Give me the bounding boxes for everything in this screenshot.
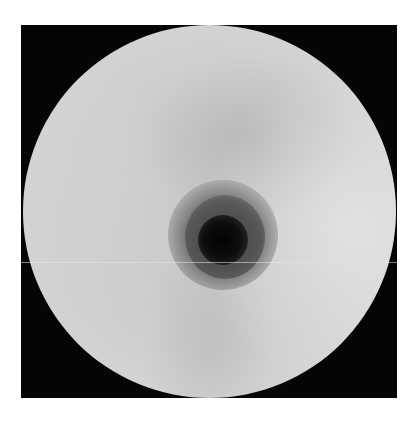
scan-line-artifact (21, 262, 397, 263)
image-canvas (0, 0, 417, 422)
circular-field-of-view (23, 25, 396, 398)
black-frame (21, 25, 397, 398)
dark-core (198, 215, 248, 265)
